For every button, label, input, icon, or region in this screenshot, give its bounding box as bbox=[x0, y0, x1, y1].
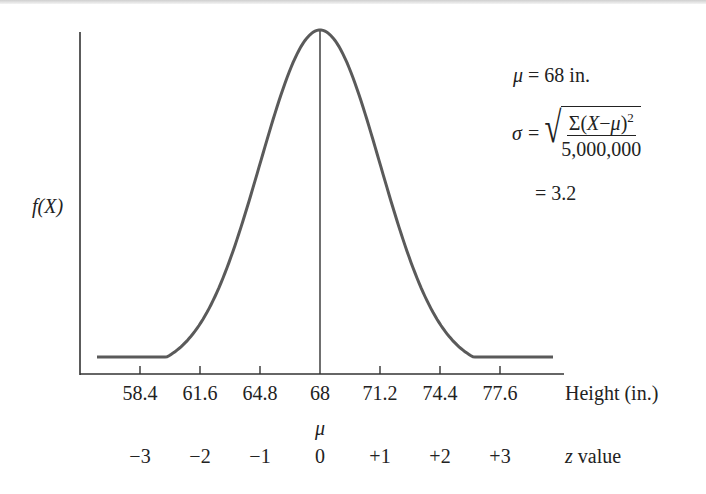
x-tick-label: 68 bbox=[310, 383, 330, 403]
z-tick-label: −1 bbox=[249, 446, 270, 466]
normal-curve bbox=[97, 30, 553, 357]
z-tick-label: 0 bbox=[315, 446, 325, 466]
z-tick-label: +3 bbox=[489, 446, 510, 466]
x-tick-label: 71.2 bbox=[363, 383, 398, 403]
z-tick-label: +1 bbox=[369, 446, 390, 466]
sigma-symbol: σ bbox=[512, 123, 522, 143]
z-tick-label: −3 bbox=[129, 446, 150, 466]
z-tick-label: +2 bbox=[429, 446, 450, 466]
x-tick-label: 74.4 bbox=[423, 383, 458, 403]
x-tick-label: 64.8 bbox=[243, 383, 278, 403]
sigma-result: = 3.2 bbox=[535, 183, 576, 203]
mean-symbol: μ bbox=[315, 418, 325, 438]
sigma-numerator: Σ(X−μ)2 bbox=[567, 107, 636, 136]
x-tick-label: 61.6 bbox=[183, 383, 218, 403]
sigma-formula: σ = √ Σ(X−μ)2 5,000,000 bbox=[512, 106, 641, 161]
z-tick-label: −2 bbox=[189, 446, 210, 466]
square-root: √ Σ(X−μ)2 5,000,000 bbox=[541, 106, 641, 161]
mean-annotation: μ = 68 in. bbox=[513, 65, 590, 85]
x-axis-label: Height (in.) bbox=[565, 383, 658, 403]
chart-plot-area bbox=[0, 0, 706, 494]
x-tick-label: 77.6 bbox=[483, 383, 518, 403]
axes bbox=[80, 32, 564, 375]
y-axis-label: f(X) bbox=[32, 196, 63, 216]
x-tick-label: 58.4 bbox=[123, 383, 158, 403]
z-axis-label: z value bbox=[565, 446, 621, 466]
sigma-denominator: 5,000,000 bbox=[561, 136, 641, 161]
